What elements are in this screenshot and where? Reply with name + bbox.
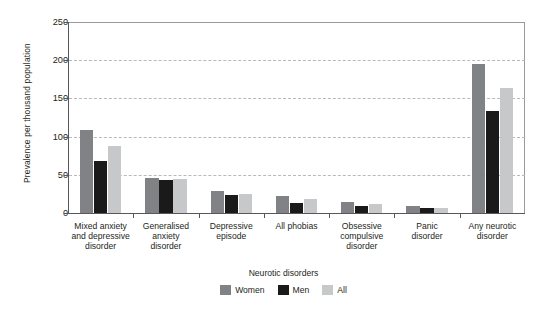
x-axis-category-label-line: Any neurotic xyxy=(460,221,525,231)
legend-swatch xyxy=(278,285,289,295)
bar xyxy=(211,191,224,213)
x-axis-category-label-line: Generalised xyxy=(133,221,198,231)
x-axis-group-separator xyxy=(460,213,461,218)
bar xyxy=(369,204,382,213)
legend-item: All xyxy=(322,285,347,295)
legend-label: Men xyxy=(293,285,310,295)
bar xyxy=(472,64,485,213)
bar xyxy=(355,206,368,213)
bars-layer xyxy=(68,22,525,213)
x-axis-category-label: Any neuroticdisorder xyxy=(460,221,525,241)
x-axis-category-label: All phobias xyxy=(264,221,329,231)
bar xyxy=(145,178,158,213)
x-axis-category-label: Panicdisorder xyxy=(394,221,459,241)
y-axis-tick-labels: 050100150200250 xyxy=(28,22,68,213)
legend-swatch xyxy=(322,285,333,295)
x-axis-category-label-line: All phobias xyxy=(264,221,329,231)
x-axis-group-separator xyxy=(394,213,395,218)
x-axis-category-label-line: disorder xyxy=(68,241,133,251)
x-axis-category-label-line: disorder xyxy=(329,241,394,251)
legend-label: Women xyxy=(235,285,264,295)
legend-item: Women xyxy=(220,285,264,295)
x-axis-category-label-line: disorder xyxy=(460,231,525,241)
bar xyxy=(341,202,354,213)
x-axis-title: Neurotic disorders xyxy=(0,268,543,278)
bar xyxy=(108,146,121,213)
x-axis-line xyxy=(68,213,525,214)
x-axis-group-separator xyxy=(264,213,265,218)
bar xyxy=(486,111,499,213)
bar xyxy=(290,203,303,213)
x-axis-category-label-line: Depressive xyxy=(199,221,264,231)
x-axis-group-separator xyxy=(133,213,134,218)
x-axis-category-label-line: Obsessive xyxy=(329,221,394,231)
bar xyxy=(225,195,238,213)
chart-legend: WomenMenAll xyxy=(0,285,543,295)
legend-label: All xyxy=(337,285,347,295)
x-axis-category-label-line: anxiety xyxy=(133,231,198,241)
bar xyxy=(94,161,107,213)
bar xyxy=(239,194,252,213)
x-axis-category-label-line: episode xyxy=(199,231,264,241)
legend-item: Men xyxy=(278,285,310,295)
bar xyxy=(159,180,172,213)
x-axis-category-label: Depressiveepisode xyxy=(199,221,264,241)
x-axis-category-label: Generalisedanxietydisorder xyxy=(133,221,198,252)
x-axis-category-label-line: Mixed anxiety xyxy=(68,221,133,231)
x-axis-group-separator xyxy=(199,213,200,218)
x-axis-category-label: Mixed anxietyand depressivedisorder xyxy=(68,221,133,252)
x-axis-title-text: Neurotic disorders xyxy=(249,268,319,278)
bar xyxy=(276,196,289,213)
x-axis-category-label-line: and depressive xyxy=(68,231,133,241)
chart-figure: Prevalence per thousand population 05010… xyxy=(0,0,543,323)
bar xyxy=(304,199,317,213)
x-axis-category-labels: Mixed anxietyand depressivedisorderGener… xyxy=(68,221,525,261)
x-axis-category-label-line: disorder xyxy=(394,231,459,241)
x-axis-category-label-line: disorder xyxy=(133,241,198,251)
bar xyxy=(406,206,419,213)
x-axis-category-label-line: compulsive xyxy=(329,231,394,241)
x-axis-category-label: Obsessivecompulsivedisorder xyxy=(329,221,394,252)
bar xyxy=(173,179,186,213)
bar xyxy=(80,130,93,213)
legend-swatch xyxy=(220,285,231,295)
x-axis-category-label-line: Panic xyxy=(394,221,459,231)
x-axis-group-separator xyxy=(329,213,330,218)
bar xyxy=(500,88,513,213)
